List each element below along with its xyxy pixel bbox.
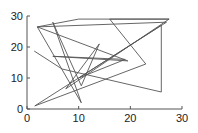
x-tick-label: 10	[73, 112, 85, 124]
x-tick-label: 20	[124, 112, 136, 124]
series-line	[34, 19, 169, 106]
line-chart: 0102030 0102030	[0, 0, 198, 133]
y-tick-label: 20	[11, 41, 23, 53]
y-tick-label: 10	[11, 72, 23, 84]
y-tick-label: 30	[11, 10, 23, 22]
x-tick-label: 0	[24, 112, 30, 124]
y-tick-label: 0	[17, 103, 23, 115]
plot-lines	[34, 19, 169, 106]
x-tick-label: 30	[176, 112, 188, 124]
